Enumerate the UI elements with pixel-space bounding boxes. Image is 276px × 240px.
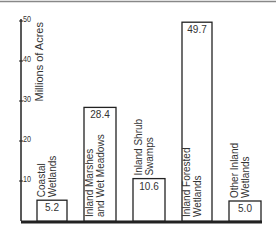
category-label-line: Other Inland [229, 143, 240, 198]
y-axis-label: Millions of Acres [33, 22, 45, 102]
category-label-line: Inland Shrub [133, 118, 144, 175]
y-tick-label: 30 [23, 94, 31, 104]
category-label: Other InlandWetlands [229, 143, 251, 198]
category-label-line: Swamps [144, 137, 155, 175]
y-tick-label: 50 [23, 14, 31, 24]
bar-value-label: 5.0 [238, 203, 252, 214]
category-label: Inland ShrubSwamps [133, 118, 155, 175]
y-tick-label: 20 [23, 134, 31, 144]
category-label-line: Coastal [36, 163, 47, 197]
bar-value-label: 5.2 [45, 202, 59, 213]
category-label: CoastalWetlands [36, 156, 58, 198]
category-label-line: and Wet Meadows [95, 134, 106, 217]
category-label-line: Wetlands [47, 156, 58, 198]
wetlands-bar-chart: 1020304050 5.2CoastalWetlands28.4Inland … [0, 0, 276, 240]
category-label-line: Wetlands [192, 175, 203, 217]
category-label-line: Inland Forested [181, 148, 192, 218]
y-tick-label: 10 [23, 174, 31, 184]
bar-value-label: 49.7 [187, 24, 207, 35]
category-label-line: Wetlands [240, 156, 251, 198]
bar-value-label: 28.4 [90, 109, 110, 120]
y-tick-label: 40 [23, 54, 31, 64]
bar-value-label: 10.6 [139, 181, 159, 192]
category-label-line: Inland Marshes [84, 149, 95, 217]
